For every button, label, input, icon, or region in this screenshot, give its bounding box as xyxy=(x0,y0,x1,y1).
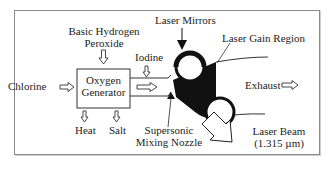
oxygen-generator-label: Oxygen Generator xyxy=(77,74,130,98)
nozzle-pointer-icon xyxy=(167,92,175,127)
laser-beam-label: Laser Beam (1.315 µm) xyxy=(249,125,309,149)
iodine-label: Iodine xyxy=(135,51,163,63)
exhaust-label: Exhaust xyxy=(245,79,280,91)
peroxide-arrow-icon xyxy=(99,50,108,64)
laser-gain-region-label: Laser Gain Region xyxy=(222,32,305,44)
laser-mirrors-label: Laser Mirrors xyxy=(155,14,216,26)
heat-arrow-icon xyxy=(81,111,88,122)
duct-flow-arrow-icon xyxy=(137,83,157,92)
bhp-line1: Basic Hydrogen xyxy=(68,25,140,37)
nozzle-line1: Supersonic xyxy=(133,124,205,136)
basic-hydrogen-peroxide-label: Basic Hydrogen Peroxide xyxy=(68,25,140,49)
iodine-arrow-icon xyxy=(143,66,150,77)
chlorine-arrow-icon xyxy=(60,83,74,92)
laser-beam-line2: (1.315 µm) xyxy=(249,137,309,149)
chlorine-label: Chlorine xyxy=(8,80,47,92)
salt-label: Salt xyxy=(109,124,126,136)
salt-arrow-icon xyxy=(113,111,120,122)
bhp-line2: Peroxide xyxy=(68,37,140,49)
supersonic-mixing-nozzle-label: Supersonic Mixing Nozzle xyxy=(133,124,205,148)
oxygen-generator-line2: Generator xyxy=(77,86,130,98)
exhaust-arrow-icon xyxy=(282,81,298,90)
laser-beam-line1: Laser Beam xyxy=(249,125,309,137)
laser-mirrors-pointer-icon xyxy=(177,28,187,50)
nozzle-line2: Mixing Nozzle xyxy=(133,136,205,148)
heat-label: Heat xyxy=(75,124,96,136)
oxygen-generator-line1: Oxygen xyxy=(77,74,130,86)
upper-laser-mirror-icon xyxy=(176,53,204,81)
